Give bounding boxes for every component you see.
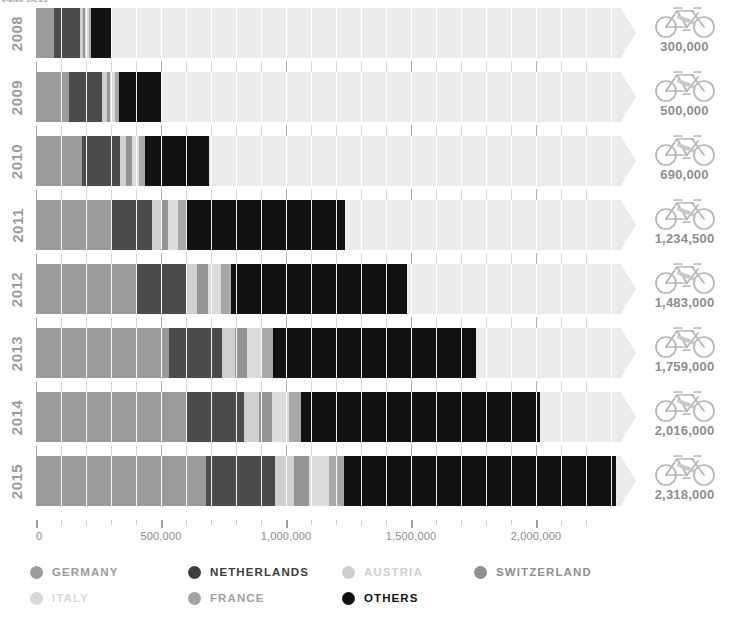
legend-swatch-icon — [188, 566, 201, 579]
bar-segment-italy — [168, 200, 178, 250]
axis-tick-minor — [236, 520, 237, 525]
total-value: 2,016,000 — [655, 423, 715, 438]
bicycle-icon — [654, 132, 716, 166]
year-label-text: 2015 — [9, 463, 26, 498]
legend-item-austria[interactable]: AUSTRIA — [342, 560, 423, 584]
bar-segment-netherlands — [82, 136, 120, 186]
legend-label: FRANCE — [210, 592, 265, 604]
bar-segment-france — [261, 328, 272, 378]
bar-row-2010 — [36, 136, 636, 186]
axis-tick-minor — [586, 520, 587, 525]
bicycle-icon — [654, 388, 716, 422]
chart-caption: E-BIKE SALES — [2, 0, 48, 3]
bar-segment-others — [186, 200, 344, 250]
year-label-text: 2010 — [9, 143, 26, 178]
total-item: 1,759,000 — [640, 324, 729, 374]
axis-tick-minor — [461, 520, 462, 525]
axis-tick-minor — [436, 520, 437, 525]
axis-tick-minor — [311, 520, 312, 525]
bicycle-icon — [654, 4, 716, 38]
bar-segment-switzerland — [161, 200, 169, 250]
bar-segment-netherlands — [69, 72, 103, 122]
axis-tick-minor — [386, 520, 387, 525]
legend-swatch-icon — [30, 592, 43, 605]
bar-segment-austria — [152, 200, 161, 250]
bar-segment-netherlands — [186, 392, 244, 442]
axis-tick-minor — [511, 520, 512, 525]
bar-track-tip — [621, 456, 636, 506]
bar-track-tip — [621, 200, 636, 250]
ebike-sales-chart: E-BIKE SALES 200820092010201120122013201… — [0, 0, 729, 617]
bar-segment-others — [273, 328, 476, 378]
axis-label: 1,000,000 — [261, 530, 312, 542]
total-item: 1,234,500 — [640, 196, 729, 246]
bar-segment-switzerland — [235, 328, 247, 378]
totals-column: 300,000500,000690,0001,234,5001,483,0001… — [640, 8, 729, 520]
legend-item-france[interactable]: FRANCE — [188, 586, 265, 610]
bar-segment-austria — [244, 392, 259, 442]
bar-segment-austria — [186, 264, 197, 314]
bar-segment-italy — [247, 328, 262, 378]
bicycle-icon — [654, 196, 716, 230]
total-value: 690,000 — [660, 167, 708, 182]
bar-segment-switzerland — [259, 392, 273, 442]
legend-item-others[interactable]: OTHERS — [342, 586, 419, 610]
bar-segment-netherlands — [54, 8, 80, 58]
bicycle-icon — [654, 324, 716, 358]
year-label-text: 2014 — [9, 399, 26, 434]
axis-tick-minor — [136, 520, 137, 525]
legend-swatch-icon — [30, 566, 43, 579]
bar-segment-austria — [275, 456, 294, 506]
bar-segment-austria — [222, 328, 235, 378]
total-item: 690,000 — [640, 132, 729, 182]
total-item: 500,000 — [640, 68, 729, 118]
bar-row-2011 — [36, 200, 636, 250]
legend-item-switzerland[interactable]: SWITZERLAND — [474, 560, 592, 584]
total-value: 300,000 — [660, 39, 708, 54]
total-value: 1,759,000 — [655, 359, 715, 374]
bar-segment-switzerland — [294, 456, 310, 506]
axis-tick-minor — [361, 520, 362, 525]
year-label-text: 2013 — [9, 335, 26, 370]
year-label-2013: 2013 — [0, 328, 34, 378]
bar-row-2014 — [36, 392, 636, 442]
bicycle-icon — [654, 452, 716, 486]
year-label-2012: 2012 — [0, 264, 34, 314]
bar-track-tip — [621, 136, 636, 186]
bar-row-2015 — [36, 456, 636, 506]
bar-segment-germany — [36, 8, 54, 58]
bar-row-2008 — [36, 8, 636, 58]
axis-label: 2,000,000 — [511, 530, 562, 542]
bar-segment-others — [301, 392, 540, 442]
year-label-2009: 2009 — [0, 72, 34, 122]
bar-segment-france — [221, 264, 231, 314]
axis-tick-major — [411, 520, 413, 528]
bar-row-2009 — [36, 72, 636, 122]
bar-segment-italy — [272, 392, 288, 442]
legend-label: ITALY — [52, 592, 89, 604]
year-label-text: 2008 — [9, 15, 26, 50]
total-value: 500,000 — [660, 103, 708, 118]
legend-swatch-icon — [342, 566, 355, 579]
axis-tick-minor — [61, 520, 62, 525]
bar-segment-france — [329, 456, 345, 506]
bar-segment-germany — [36, 264, 136, 314]
bar-track-tip — [621, 392, 636, 442]
year-label-2015: 2015 — [0, 456, 34, 506]
bar-segment-netherlands — [206, 456, 275, 506]
bicycle-icon — [654, 68, 716, 102]
bar-track-tip — [621, 264, 636, 314]
bar-track-tip — [621, 72, 636, 122]
total-item: 2,016,000 — [640, 388, 729, 438]
bar-segment-italy — [208, 264, 221, 314]
axis-tick-major — [286, 520, 288, 528]
legend-swatch-icon — [188, 592, 201, 605]
bar-segment-others — [91, 8, 111, 58]
legend-swatch-icon — [474, 566, 487, 579]
legend-item-italy[interactable]: ITALY — [30, 586, 89, 610]
year-label-2014: 2014 — [0, 392, 34, 442]
legend-item-netherlands[interactable]: NETHERLANDS — [188, 560, 309, 584]
bar-rows — [36, 8, 636, 520]
legend-item-germany[interactable]: GERMANY — [30, 560, 118, 584]
legend-label: SWITZERLAND — [496, 566, 592, 578]
